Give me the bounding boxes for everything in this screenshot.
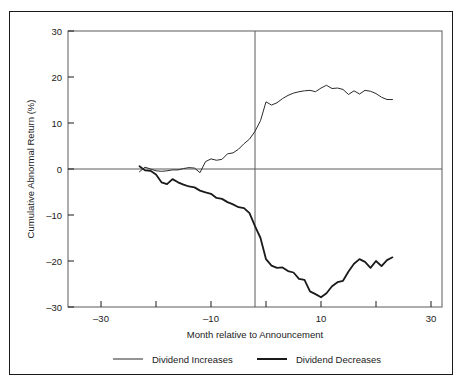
reference-lines bbox=[68, 31, 442, 307]
x-tick-label: 30 bbox=[426, 313, 437, 324]
x-tick-label: 10 bbox=[316, 313, 327, 324]
y-tick-label: 0 bbox=[57, 164, 62, 175]
y-tick-label: –10 bbox=[46, 210, 62, 221]
y-tick-label: –30 bbox=[46, 302, 62, 313]
y-axis-ticks: 3020100–10–20–30 bbox=[46, 26, 74, 313]
series-line-dividend-decreases bbox=[140, 166, 393, 297]
legend-label-dividend-increases: Dividend Increases bbox=[152, 354, 233, 365]
data-series-group bbox=[140, 85, 393, 297]
legend-label-dividend-decreases: Dividend Decreases bbox=[296, 354, 381, 365]
chart-legend: Dividend Increases Dividend Decreases bbox=[113, 354, 381, 365]
x-tick-label: –30 bbox=[93, 313, 109, 324]
y-tick-label: –20 bbox=[46, 256, 62, 267]
y-axis-title: Cumulative Abnormal Return (%) bbox=[25, 100, 36, 239]
series-line-dividend-increases bbox=[140, 85, 393, 172]
x-axis-title: Month relative to Announcement bbox=[187, 329, 324, 340]
x-tick-label: –10 bbox=[203, 313, 219, 324]
y-tick-label: 20 bbox=[51, 72, 62, 83]
y-tick-label: 30 bbox=[51, 26, 62, 37]
y-tick-label: 10 bbox=[51, 118, 62, 129]
x-axis-ticks: –30–101030 bbox=[93, 301, 436, 324]
figure-container: 3020100–10–20–30 –30–101030 Month relati… bbox=[0, 0, 465, 386]
cumulative-abnormal-return-chart: 3020100–10–20–30 –30–101030 Month relati… bbox=[0, 0, 465, 386]
